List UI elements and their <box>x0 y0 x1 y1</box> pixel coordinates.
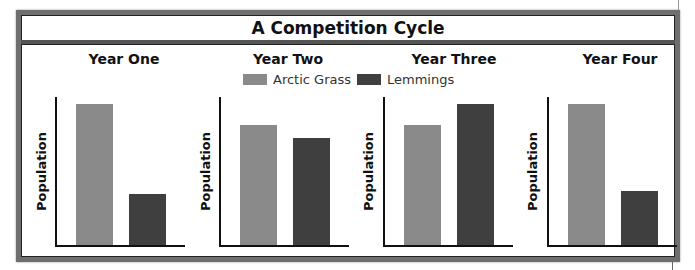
legend-swatch-lemmings <box>357 74 381 85</box>
bar-lemmings <box>293 138 330 245</box>
chart-year-three <box>383 97 513 247</box>
chart-year-one <box>55 97 185 247</box>
bar-lemmings <box>621 191 658 245</box>
legend-item-lemmings: Lemmings <box>357 72 454 87</box>
chart-year-two <box>219 97 349 247</box>
bar-arctic-grass <box>404 125 441 245</box>
legend-swatch-grass <box>243 74 267 85</box>
bar-arctic-grass <box>568 104 605 245</box>
y-axis-label: Population <box>198 112 213 232</box>
legend-label: Arctic Grass <box>273 72 351 87</box>
chart-title-year-four: Year Four <box>550 51 690 67</box>
bar-arctic-grass <box>76 104 113 245</box>
decorative-line <box>672 262 673 270</box>
figure-title: A Competition Cycle <box>21 15 675 44</box>
y-axis-label: Population <box>525 112 540 232</box>
chart-year-four <box>547 97 677 247</box>
y-axis-label: Population <box>34 112 49 232</box>
bar-lemmings <box>129 194 166 245</box>
legend-item-arctic-grass: Arctic Grass <box>243 72 351 87</box>
chart-title-year-one: Year One <box>54 51 194 67</box>
bar-lemmings <box>457 104 494 245</box>
chart-title-year-two: Year Two <box>218 51 358 67</box>
legend-label: Lemmings <box>387 72 454 87</box>
chart-title-year-three: Year Three <box>384 51 524 67</box>
decorative-line <box>678 0 679 10</box>
bar-arctic-grass <box>240 125 277 245</box>
y-axis-label: Population <box>361 112 376 232</box>
legend: Arctic Grass Lemmings <box>243 72 460 87</box>
